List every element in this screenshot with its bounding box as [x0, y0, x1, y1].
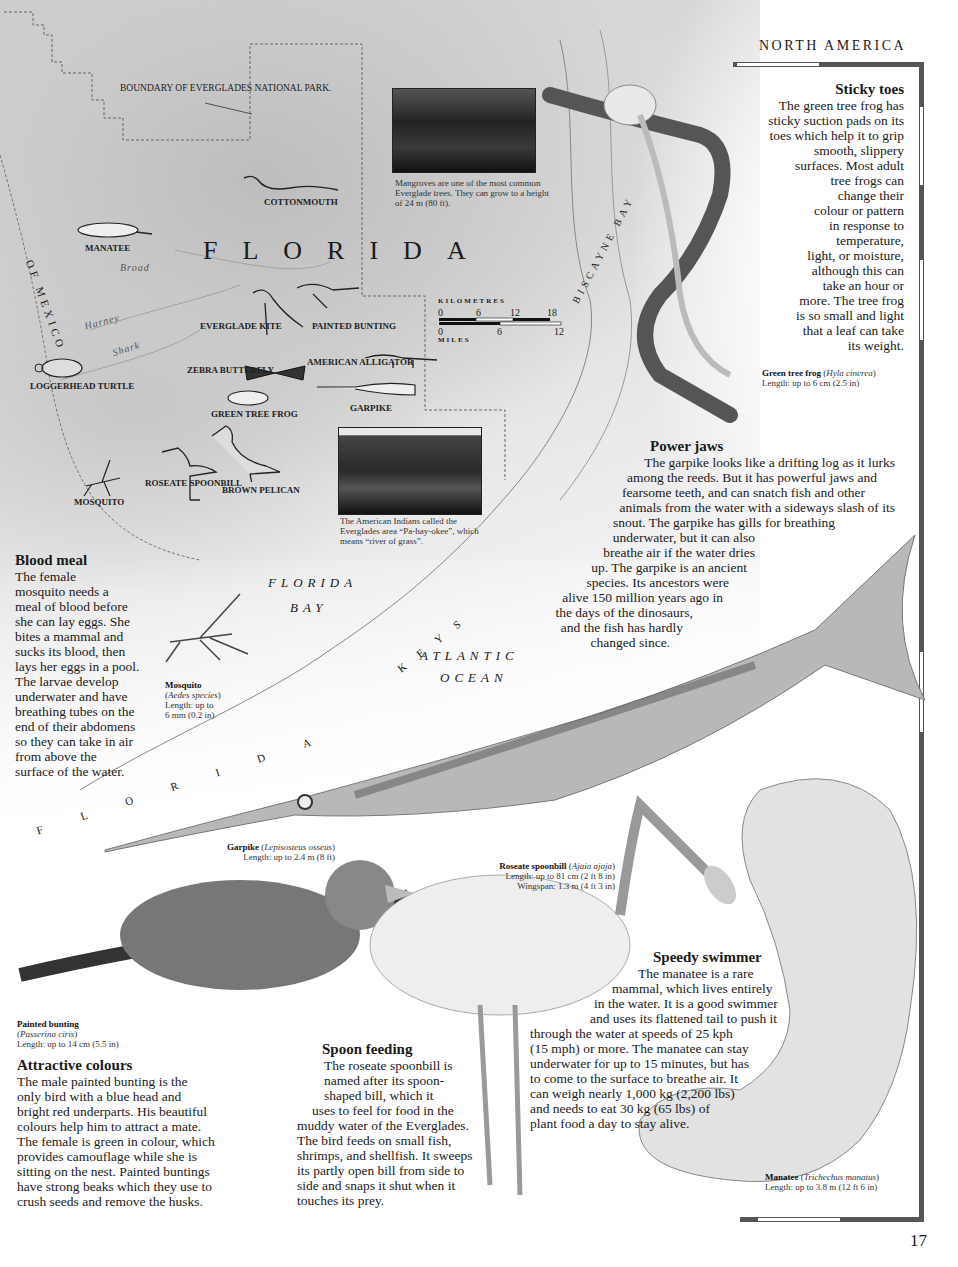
blood-meal-body: The femalemosquito needs ameal of blood … [15, 569, 165, 779]
green-tree-frog-map-icon [222, 388, 272, 408]
map-label-everglade-kite: Everglade kite [200, 321, 282, 331]
green-tree-frog-illustration [540, 75, 760, 425]
map-label-brown-pelican: Brown pelican [222, 485, 300, 495]
map-title: FLORIDA [203, 236, 491, 266]
brown-pelican-map-icon [210, 422, 285, 482]
mosquito-illustration [160, 590, 250, 670]
scale-km-label: KILOMETRES [438, 297, 506, 305]
article-attractive-colours: Attractive colours The male painted bunt… [17, 1057, 257, 1209]
scale-mi-tick-6: 6 [497, 326, 502, 337]
map-label-cottonmouth: Cottonmouth [264, 197, 338, 207]
map-label-manatee: Manatee [85, 243, 130, 253]
spoon-feeding-heading: Spoon feeding [322, 1041, 488, 1058]
spoonbill-caption: Roseate spoonbill (Ajaia ajaja)Length: u… [470, 861, 615, 891]
painted-bunting-icon [293, 280, 363, 310]
map-label-american-alligator: American alligator [307, 357, 413, 367]
garpike-caption: Garpike (Lepisosteus osseus)Length: up t… [190, 842, 335, 862]
spoon-feeding-body: The roseate spoonbill is named after its… [288, 1058, 488, 1208]
speedy-swimmer-body: The manatee is a rare mammal, which live… [526, 966, 826, 1131]
page-number: 17 [910, 1231, 927, 1251]
map-label-green-tree-frog: Green tree frog [211, 409, 298, 419]
map-label-garpike: Garpike [350, 403, 392, 413]
blood-meal-heading: Blood meal [15, 552, 165, 569]
article-power-jaws: Power jaws The garpike looks like a drif… [505, 438, 895, 650]
manatee-map-icon [70, 220, 155, 242]
map-label-painted-bunting: Painted bunting [312, 321, 396, 331]
power-jaws-body: The garpike looks like a drifting log as… [505, 455, 895, 650]
frog-caption: Green tree frog (Hyla cinerea)Length: up… [762, 368, 876, 388]
mangroves-photo [392, 88, 536, 173]
power-jaws-heading: Power jaws [650, 438, 895, 455]
article-spoon-feeding: Spoon feeding The roseate spoonbill is n… [288, 1041, 488, 1208]
article-blood-meal: Blood meal The femalemosquito needs amea… [15, 552, 165, 779]
article-sticky-toes: Sticky toes The green tree frog hasstick… [760, 81, 904, 353]
garpike-map-icon [315, 377, 420, 399]
section-title: NORTH AMERICA [759, 38, 906, 54]
cottonmouth-icon [240, 172, 340, 197]
mangroves-caption: Mangroves are one of the most common Eve… [395, 178, 555, 208]
mosquito-caption: Mosquito(Aedes species)Length: up to6 mm… [165, 680, 221, 720]
mosquito-map-icon [80, 458, 125, 498]
attractive-colours-body: The male painted bunting is theonly bird… [17, 1074, 257, 1209]
boundary-label: BOUNDARY OF EVERGLADES NATIONAL PARK. [120, 83, 331, 93]
speedy-swimmer-heading: Speedy swimmer [653, 949, 826, 966]
frame-border-bottom [740, 1217, 924, 1222]
manatee-caption: Manatee (Trichechus manatus)Length: up t… [765, 1172, 879, 1192]
article-speedy-swimmer: Speedy swimmer The manatee is a rare mam… [526, 949, 826, 1131]
map-label-zebra-butterfly: Zebra butterfly [187, 365, 274, 375]
bunting-caption: Painted bunting(Passerina ciris)Length: … [17, 1019, 119, 1049]
loggerhead-turtle-icon [30, 356, 90, 381]
sticky-toes-body: The green tree frog hassticky suction pa… [760, 98, 904, 353]
scale-miles-label: MILES [438, 336, 471, 344]
frame-border-top [733, 62, 924, 67]
everglades-photo [338, 427, 482, 515]
map-label-mosquito: Mosquito [74, 497, 124, 507]
map-label-loggerhead-turtle: Loggerhead turtle [30, 381, 134, 391]
attractive-colours-heading: Attractive colours [17, 1057, 257, 1074]
sticky-toes-heading: Sticky toes [760, 81, 904, 98]
river-broad-label: Broad [120, 262, 150, 273]
